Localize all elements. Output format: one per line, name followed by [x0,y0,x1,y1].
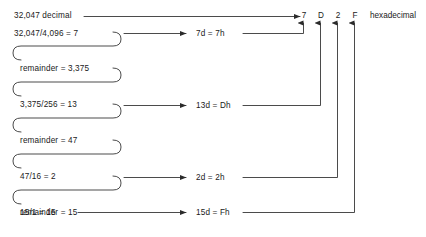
step-1-remainder-label: remainder = 3,375 [20,64,89,74]
result-digit-3: 2 [332,11,344,20]
hex-conversion-4-label: 15d = Fh [196,208,230,218]
result-digit-4: F [349,11,361,20]
route-digit-2 [243,23,338,178]
step-4-division-label: 15/1 = 15 [20,208,56,218]
route-digit-D [243,23,321,106]
hex-conversion-3-label: 2d = 2h [196,173,225,183]
route-digit-7 [243,23,304,34]
result-digit-1: 7 [298,11,310,20]
source-value-label: 32,047 decimal [14,11,72,21]
hex-conversion-1-label: 7d = 7h [196,29,225,39]
hex-conversion-2-label: 13d = Dh [196,101,231,111]
step-3-division-label: 47/16 = 2 [20,172,56,182]
hex-conversion-diagram: 7 --> [0,0,426,237]
step-2-division-label: 3,375/256 = 13 [20,100,77,110]
result-digit-2: D [315,11,327,20]
step-1-division-label: 32,047/4,096 = 7 [14,29,78,39]
result-base-label: hexadecimal [370,11,416,20]
step-2-remainder-label: remainder = 47 [20,136,77,146]
